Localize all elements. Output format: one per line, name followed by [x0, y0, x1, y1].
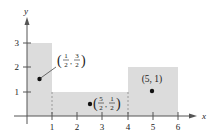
- svg-text:): ): [81, 53, 86, 69]
- x-axis-label: x: [201, 111, 206, 121]
- svg-text:,: ,: [105, 100, 107, 109]
- svg-text:): ): [116, 96, 121, 112]
- x-tick-label: 4: [126, 122, 131, 132]
- svg-text:3: 3: [75, 52, 79, 60]
- point-label-1: ( 1 2 , 3 2 ): [57, 52, 86, 69]
- svg-text:1: 1: [110, 95, 114, 103]
- x-axis-arrow-icon: [189, 114, 197, 119]
- svg-text:2: 2: [75, 61, 79, 69]
- point-label-3: (5, 1): [142, 74, 163, 85]
- svg-text:5: 5: [99, 95, 103, 103]
- chart: 1 2 3 4 5 6 1 2 3 x y ( 1 2 , 3 2 ) ( 5 …: [0, 0, 214, 138]
- data-point: [88, 102, 92, 106]
- x-tick-label: 5: [151, 122, 156, 132]
- y-tick-label: 1: [15, 87, 20, 97]
- y-axis-arrow-icon: [25, 17, 30, 25]
- y-tick-label: 2: [15, 62, 20, 72]
- x-tick-label: 3: [100, 122, 105, 132]
- svg-text:2: 2: [64, 61, 68, 69]
- svg-text:(: (: [57, 53, 62, 69]
- svg-text:1: 1: [64, 52, 68, 60]
- svg-text:,: ,: [70, 57, 72, 66]
- x-tick-label: 6: [176, 122, 181, 132]
- x-tick-label: 2: [75, 122, 80, 132]
- x-tick-label: 1: [50, 122, 55, 132]
- data-point: [150, 89, 154, 93]
- svg-text:2: 2: [99, 104, 103, 112]
- svg-text:2: 2: [110, 104, 114, 112]
- svg-text:(: (: [93, 96, 98, 112]
- y-axis-label: y: [23, 6, 28, 16]
- y-tick-label: 3: [15, 38, 20, 48]
